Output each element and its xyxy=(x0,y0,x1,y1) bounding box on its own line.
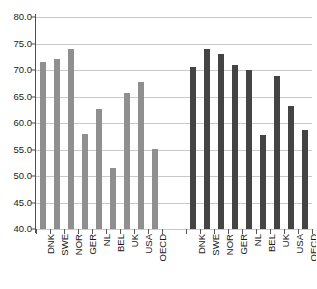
bar xyxy=(124,93,130,229)
y-axis-tick-mark xyxy=(31,43,36,44)
x-tick-label: NL xyxy=(253,234,263,246)
y-tick-label: 65.0 xyxy=(0,92,32,102)
bar xyxy=(138,82,144,229)
bar xyxy=(96,109,102,229)
x-tick-label: SWE xyxy=(211,234,221,256)
y-tick-label: 80.0 xyxy=(0,12,32,22)
y-axis-tick-mark xyxy=(31,123,36,124)
bar xyxy=(218,54,224,229)
x-tick-label: GER xyxy=(239,234,249,255)
x-tick-label: USA xyxy=(144,234,154,254)
x-tick-label: NL xyxy=(102,234,112,246)
y-tick-label: 45.0 xyxy=(0,198,32,208)
bar xyxy=(204,49,210,229)
bar xyxy=(110,168,116,229)
x-tick-label: DNK xyxy=(197,234,207,254)
bar xyxy=(246,70,252,229)
bar xyxy=(288,106,294,229)
gridline xyxy=(36,176,312,177)
gridline xyxy=(36,150,312,151)
y-axis-tick-mark xyxy=(31,70,36,71)
x-tick-label: SWE xyxy=(60,234,70,256)
y-axis-tick-mark xyxy=(31,17,36,18)
x-axis-labels: DNKSWENORGERNLBELUKUSAOECDDNKSWENORGERNL… xyxy=(36,234,312,289)
bar xyxy=(190,67,196,229)
gridline xyxy=(36,97,312,98)
plot-area xyxy=(36,17,312,229)
gridline xyxy=(36,44,312,45)
y-axis-tick-mark xyxy=(31,202,36,203)
y-tick-label: 55.0 xyxy=(0,145,32,155)
y-tick-label: 50.0 xyxy=(0,171,32,181)
gridline xyxy=(36,70,312,71)
bar xyxy=(152,149,158,229)
x-tick-label: USA xyxy=(295,234,305,254)
y-tick-label: 70.0 xyxy=(0,65,32,75)
y-axis-tick-mark xyxy=(31,96,36,97)
x-tick-label: GER xyxy=(88,234,98,255)
bar xyxy=(40,62,46,229)
x-tick-label: UK xyxy=(281,234,291,247)
x-tick-label: OECD xyxy=(309,234,317,261)
bar xyxy=(82,134,88,229)
x-tick-label: OECD xyxy=(158,234,168,261)
bar-chart: 80.075.070.065.060.055.050.045.040.0 DNK… xyxy=(0,0,316,289)
y-tick-label: 60.0 xyxy=(0,118,32,128)
gridline xyxy=(36,203,312,204)
y-axis-tick-mark xyxy=(31,229,36,230)
y-axis-tick-mark xyxy=(31,176,36,177)
bar xyxy=(68,49,74,229)
x-tick-label: BEL xyxy=(116,234,126,252)
bar xyxy=(260,135,266,229)
x-tick-label: NOR xyxy=(225,234,235,255)
bar xyxy=(302,130,308,229)
y-axis-tick-mark xyxy=(31,149,36,150)
bar xyxy=(274,76,280,229)
gridline xyxy=(36,17,312,18)
y-tick-label: 40.0 xyxy=(0,224,32,234)
gridline xyxy=(36,123,312,124)
y-axis-labels: 80.075.070.065.060.055.050.045.040.0 xyxy=(0,0,32,289)
x-tick-label: UK xyxy=(130,234,140,247)
bar xyxy=(232,65,238,229)
x-tick-label: NOR xyxy=(74,234,84,255)
x-tick-label: BEL xyxy=(267,234,277,252)
bar xyxy=(54,59,60,229)
x-tick-label: DNK xyxy=(46,234,56,254)
y-tick-label: 75.0 xyxy=(0,39,32,49)
